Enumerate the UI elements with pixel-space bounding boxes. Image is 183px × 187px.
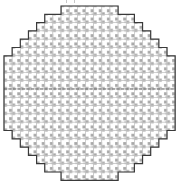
die-cell <box>77 131 85 139</box>
die-cell <box>69 89 77 97</box>
die-cell <box>143 106 151 114</box>
die-cell <box>94 89 102 97</box>
die-cell <box>28 72 36 80</box>
die-cell <box>69 122 77 130</box>
die-cell <box>28 131 36 139</box>
die-cell <box>102 56 110 64</box>
die-cell <box>86 97 94 105</box>
die-cell <box>28 81 36 89</box>
die-cell <box>94 81 102 89</box>
notch-mark <box>74 0 75 3</box>
die-cell <box>61 139 69 147</box>
die-cell <box>118 89 126 97</box>
die-cell <box>53 14 61 22</box>
die-cell <box>110 56 118 64</box>
die-cell <box>126 164 134 172</box>
die-cell <box>28 106 36 114</box>
die-cell <box>110 139 118 147</box>
die-cell <box>45 81 53 89</box>
die-cell <box>77 155 85 163</box>
die-cell <box>37 106 45 114</box>
die-cell <box>77 64 85 72</box>
die-cell <box>126 89 134 97</box>
die-cell <box>126 23 134 31</box>
die-cell <box>4 89 12 97</box>
die-cell <box>53 155 61 163</box>
die-cell <box>102 155 110 163</box>
die-cell <box>134 64 142 72</box>
die-cell <box>69 172 77 180</box>
die-cell <box>102 147 110 155</box>
die-grid <box>4 6 175 180</box>
die-cell <box>134 48 142 56</box>
die-cell <box>102 6 110 14</box>
die-cell <box>151 97 159 105</box>
die-cell <box>69 56 77 64</box>
die-cell <box>20 48 28 56</box>
die-cell <box>110 31 118 39</box>
die-cell <box>4 106 12 114</box>
die-cell <box>86 48 94 56</box>
die-cell <box>143 139 151 147</box>
die-cell <box>53 131 61 139</box>
die-cell <box>28 31 36 39</box>
die-cell <box>151 39 159 47</box>
die-cell <box>37 155 45 163</box>
die-cell <box>102 39 110 47</box>
die-cell <box>118 131 126 139</box>
die-cell <box>134 114 142 122</box>
die-cell <box>28 39 36 47</box>
die-cell <box>94 72 102 80</box>
die-cell <box>45 131 53 139</box>
die-cell <box>134 139 142 147</box>
die-cell <box>69 106 77 114</box>
die-cell <box>143 122 151 130</box>
die-cell <box>77 172 85 180</box>
wafer-map <box>0 0 183 187</box>
die-cell <box>94 64 102 72</box>
die-cell <box>20 131 28 139</box>
die-cell <box>151 56 159 64</box>
die-cell <box>12 106 20 114</box>
die-cell <box>77 147 85 155</box>
die-cell <box>94 122 102 130</box>
die-cell <box>134 122 142 130</box>
die-cell <box>77 106 85 114</box>
die-cell <box>167 72 175 80</box>
die-cell <box>37 139 45 147</box>
die-cell <box>4 64 12 72</box>
die-cell <box>37 48 45 56</box>
die-cell <box>118 56 126 64</box>
die-cell <box>151 48 159 56</box>
die-cell <box>69 155 77 163</box>
die-cell <box>143 56 151 64</box>
die-cell <box>37 97 45 105</box>
die-cell <box>28 122 36 130</box>
die-cell <box>110 72 118 80</box>
die-cell <box>118 64 126 72</box>
die-cell <box>102 14 110 22</box>
die-cell <box>77 81 85 89</box>
die-cell <box>45 56 53 64</box>
die-cell <box>159 64 167 72</box>
die-cell <box>45 14 53 22</box>
die-cell <box>86 172 94 180</box>
die-cell <box>69 131 77 139</box>
die-cell <box>86 64 94 72</box>
die-cell <box>143 147 151 155</box>
die-cell <box>12 97 20 105</box>
die-cell <box>86 81 94 89</box>
die-cell <box>20 114 28 122</box>
die-cell <box>61 64 69 72</box>
die-cell <box>45 39 53 47</box>
die-cell <box>45 106 53 114</box>
die-cell <box>159 106 167 114</box>
die-cell <box>118 139 126 147</box>
die-cell <box>118 97 126 105</box>
die-cell <box>110 89 118 97</box>
die-cell <box>69 139 77 147</box>
die-cell <box>102 89 110 97</box>
die-cell <box>53 39 61 47</box>
die-cell <box>86 72 94 80</box>
die-cell <box>45 72 53 80</box>
